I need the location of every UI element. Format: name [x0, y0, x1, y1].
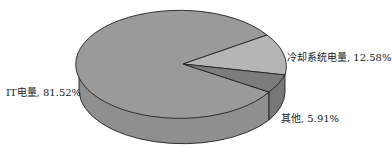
label-cooling-power: 冷却系统电量, 12.58% [287, 49, 392, 64]
pie-chart [0, 0, 392, 149]
pie-top [76, 10, 287, 118]
label-it-power: IT电量, 81.52% [6, 84, 81, 99]
label-other: 其他, 5.91% [281, 110, 339, 125]
